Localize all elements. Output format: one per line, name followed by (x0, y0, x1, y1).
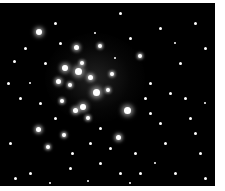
star (19, 97, 22, 100)
star (129, 182, 131, 184)
star (60, 99, 64, 103)
star (179, 62, 182, 65)
star (46, 145, 50, 149)
star (149, 82, 152, 85)
star (73, 108, 78, 113)
star (194, 132, 197, 135)
star (189, 117, 192, 120)
star (29, 172, 32, 175)
star (80, 61, 84, 65)
star (69, 167, 72, 170)
star (93, 89, 100, 96)
star (109, 147, 112, 150)
star (138, 54, 142, 58)
star (204, 102, 206, 104)
star (164, 142, 167, 145)
star (68, 83, 72, 87)
star (169, 92, 172, 95)
star (86, 116, 90, 120)
star (116, 135, 121, 140)
star (159, 27, 162, 30)
star (154, 162, 156, 164)
star (7, 82, 10, 85)
star (89, 142, 92, 145)
star (204, 47, 207, 50)
star (49, 182, 51, 184)
star (74, 45, 79, 50)
star (39, 102, 42, 105)
star (54, 22, 57, 25)
star (144, 97, 147, 100)
star (24, 47, 27, 50)
star (13, 60, 16, 63)
star (59, 42, 62, 45)
star (106, 88, 110, 92)
star (110, 72, 114, 76)
star (204, 177, 207, 180)
star (184, 97, 187, 100)
star (44, 62, 47, 65)
star (29, 82, 31, 84)
star (99, 162, 102, 165)
star (98, 44, 102, 48)
star (36, 29, 42, 35)
star (56, 79, 61, 84)
star (119, 172, 122, 175)
star (14, 177, 17, 180)
star (139, 172, 142, 175)
star (99, 127, 102, 130)
star (199, 152, 202, 155)
star (87, 180, 89, 182)
star (80, 104, 86, 110)
star (124, 107, 131, 114)
star (9, 142, 12, 145)
star (194, 22, 197, 25)
star (54, 117, 57, 120)
star-cluster-image (0, 3, 215, 186)
star (174, 172, 177, 175)
star (62, 65, 68, 71)
star (174, 42, 176, 44)
star (159, 122, 162, 125)
star (134, 152, 137, 155)
star (75, 68, 82, 75)
star (71, 152, 74, 155)
star (149, 112, 152, 115)
star (36, 127, 41, 132)
star (129, 37, 132, 40)
star (88, 75, 93, 80)
star (62, 133, 66, 137)
star (119, 12, 122, 15)
